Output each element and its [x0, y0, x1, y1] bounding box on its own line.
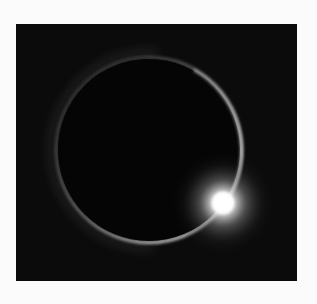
- eclipse-graphic: [16, 24, 297, 281]
- eclipse-photo: [16, 24, 297, 281]
- diamond-core: [212, 192, 234, 214]
